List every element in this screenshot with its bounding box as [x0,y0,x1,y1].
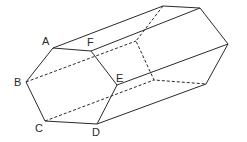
vertex-label-a: A [42,35,50,47]
back-face-visible-edges [163,6,228,84]
hidden-lateral-edge-c [45,80,154,121]
vertex-label-e: E [116,72,123,84]
lateral-edge-d [97,84,206,124]
hidden-back-edges [136,6,206,84]
lateral-edge-f [91,8,200,51]
vertex-label-b: B [14,76,21,88]
hexagonal-prism-diagram: A F E D C B [0,0,247,142]
vertex-label-f: F [87,36,94,48]
vertex-label-d: D [92,126,100,138]
front-hexagon-face [26,48,117,124]
lateral-edge-e [117,44,228,85]
vertex-label-c: C [35,122,43,134]
